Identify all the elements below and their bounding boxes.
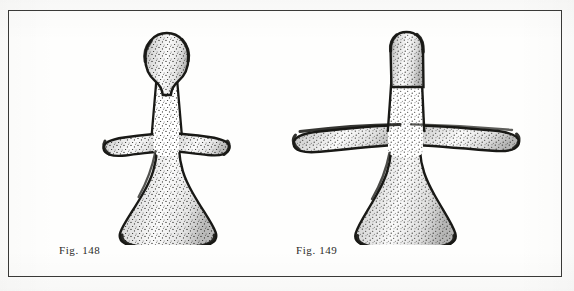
figure-149-head	[391, 32, 424, 87]
figure-148-skirt	[120, 149, 216, 245]
plate-frame-border: Fig. 148	[8, 10, 562, 277]
figure-148-block: Fig. 148	[39, 11, 279, 276]
figure-149-caption: Fig. 149	[296, 244, 337, 256]
figure-148-caption: Fig. 148	[59, 244, 100, 256]
illustration-plate: Fig. 148	[0, 0, 574, 291]
figure-148-ink	[103, 33, 229, 245]
figure-149-block: Fig. 149	[284, 11, 539, 276]
figure-149-skirt	[355, 151, 455, 245]
figure-149-ink	[293, 32, 519, 245]
figure-148-drawing	[39, 25, 279, 245]
figure-149-drawing	[284, 25, 539, 245]
